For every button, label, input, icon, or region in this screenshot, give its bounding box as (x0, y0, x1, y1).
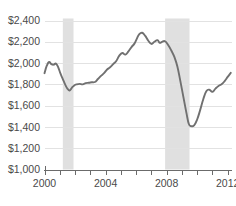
y-tick-label-1200: $1,200 (8, 142, 40, 154)
y-tick-label-1400: $1,400 (8, 121, 40, 133)
recession-band-1 (63, 19, 74, 170)
x-tick-label-2012: 2012 (216, 177, 236, 189)
y-tick-label-1600: $1,600 (8, 99, 40, 111)
y-tick-label-1800: $1,800 (8, 78, 40, 90)
x-tick-labels-group: 2000200420082012 (33, 177, 236, 189)
x-tick-label-2004: 2004 (94, 177, 118, 189)
y-tick-label-1000: $1,000 (8, 163, 40, 175)
recession-bands-group (63, 19, 190, 170)
chart-container: $1,000$1,200$1,400$1,600$1,800$2,000$2,2… (0, 0, 236, 206)
y-tick-labels-group: $1,000$1,200$1,400$1,600$1,800$2,000$2,2… (8, 14, 40, 175)
line-chart: $1,000$1,200$1,400$1,600$1,800$2,000$2,2… (0, 0, 236, 206)
y-tick-label-2400: $2,400 (8, 14, 40, 26)
x-tick-label-2000: 2000 (33, 177, 57, 189)
x-tick-label-2008: 2008 (155, 177, 179, 189)
y-tick-label-2200: $2,200 (8, 35, 40, 47)
recession-band-2 (165, 19, 189, 170)
y-tick-label-2000: $2,000 (8, 57, 40, 69)
